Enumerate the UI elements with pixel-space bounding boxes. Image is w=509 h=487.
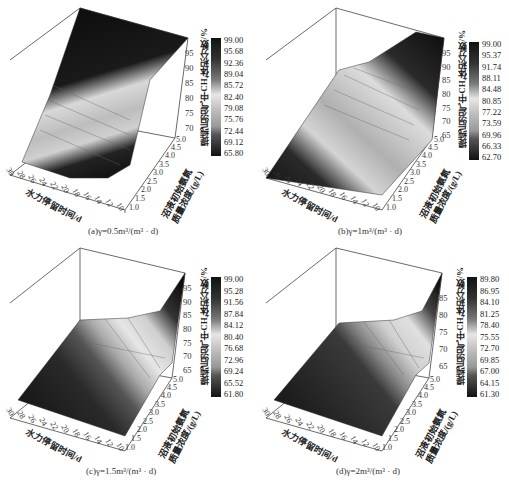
colorbar-tick: 85.72 (224, 81, 243, 90)
y-tick: 1.5 (135, 194, 145, 203)
caption-c: (c)γ=1.5m³/(m³ · d) (86, 466, 156, 476)
colorbar-tick: 61.80 (224, 390, 243, 399)
colorbar-d (467, 277, 477, 397)
y-tick: 1.0 (125, 443, 135, 452)
z-tick: 80 (442, 89, 451, 99)
caption-b: (b)γ=1m³/(m³ · d) (338, 226, 402, 236)
z-tick: 95 (185, 48, 194, 58)
colorbar-ticks-c: 99.00 95.28 91.56 87.84 84.12 80.40 76.6… (224, 275, 243, 399)
colorbar-tick: 62.70 (482, 153, 501, 162)
colorbar-tick: 69.96 (482, 131, 501, 140)
z-tick: 85 (442, 75, 451, 85)
z-ticks-d: 85 80 75 70 65 (439, 293, 448, 371)
colorbar-tick: 69.12 (224, 138, 243, 147)
y-tick: 1.5 (131, 434, 141, 443)
y-tick: 2.0 (394, 425, 404, 434)
colorbar-tick: 79.08 (224, 104, 243, 113)
z-axis-label-b: 提纯后沼气中CH₄体积分数/% (455, 30, 468, 148)
z-tick: 80 (439, 310, 448, 320)
z-tick: 80 (183, 324, 192, 334)
colorbar-ticks-d: 89.80 86.95 84.10 81.25 78.40 75.55 72.7… (480, 275, 499, 399)
y-tick: 1.0 (386, 203, 396, 212)
panel-c: 99.00 95.28 91.56 87.84 84.12 80.40 76.6… (0, 243, 254, 486)
z-tick: 65 (439, 361, 448, 371)
colorbar-tick: 66.33 (482, 142, 501, 151)
y-tick: 2.0 (141, 185, 151, 194)
z-tick: 75 (185, 108, 194, 118)
colorbar-tick: 87.84 (224, 310, 243, 319)
colorbar-ticks-a: 99.00 95.68 92.36 89.04 85.72 82.40 79.0… (224, 36, 243, 158)
colorbar-tick: 84.12 (224, 321, 243, 330)
z-tick: 70 (439, 344, 448, 354)
z-tick: 85 (185, 78, 194, 88)
colorbar-tick: 80.40 (224, 333, 243, 342)
z-tick: 90 (185, 63, 194, 73)
colorbar-tick: 99.00 (224, 36, 243, 45)
z-tick: 70 (185, 123, 194, 133)
colorbar-tick: 91.74 (482, 63, 501, 72)
panel-b: 99.00 95.37 91.74 88.11 84.48 80.85 77.2… (254, 0, 508, 243)
y-tick: 4.0 (422, 151, 432, 160)
z-tick: 90 (183, 297, 192, 307)
colorbar-tick: 95.37 (482, 51, 501, 60)
colorbar-tick: 80.85 (482, 97, 501, 106)
panel-d: 89.80 86.95 84.10 81.25 78.40 75.55 72.7… (254, 243, 508, 486)
y-tick: 4.0 (165, 151, 175, 160)
colorbar-tick: 61.30 (480, 390, 499, 399)
z-ticks-a: 95 90 85 80 75 70 (185, 48, 194, 133)
y-tick: 1.0 (129, 203, 139, 212)
colorbar-tick: 69.24 (224, 367, 243, 376)
y-tick: 3.0 (410, 168, 420, 177)
colorbar-tick: 75.55 (480, 333, 499, 342)
z-tick: 70 (442, 116, 451, 126)
y-tick: 3.0 (149, 408, 159, 417)
z-tick: 85 (439, 293, 448, 303)
y-tick: 1.0 (382, 443, 392, 452)
colorbar-tick: 65.52 (224, 379, 243, 388)
z-tick: 80 (185, 93, 194, 103)
z-tick: 75 (183, 338, 192, 348)
colorbar-tick: 99.00 (224, 275, 243, 284)
colorbar-tick: 81.25 (480, 310, 499, 319)
panel-a: 99.00 95.68 92.36 89.04 85.72 82.40 79.0… (0, 0, 254, 243)
caption-a: (a)γ=0.5m³/(m³ · d) (88, 226, 158, 236)
z-ticks-c: 95 90 85 80 75 70 65 (183, 283, 192, 375)
z-tick: 75 (439, 327, 448, 337)
y-tick: 4.0 (418, 391, 428, 400)
y-tick: 2.0 (398, 185, 408, 194)
z-tick: 70 (183, 351, 192, 361)
colorbar-tick: 72.44 (224, 127, 243, 136)
y-tick: 3.0 (153, 168, 163, 177)
colorbar-tick: 73.59 (482, 119, 501, 128)
z-axis-label-d: 提纯后沼气中CH₄体积分数/% (453, 267, 466, 385)
colorbar-tick: 89.80 (480, 275, 499, 284)
colorbar-tick: 99.00 (482, 40, 501, 49)
z-tick: 95 (183, 283, 192, 293)
colorbar-tick: 92.36 (224, 59, 243, 68)
y-tick: 2.0 (137, 425, 147, 434)
z-tick: 90 (442, 62, 451, 72)
z-ticks-b: 95 90 85 80 75 70 65 (442, 48, 451, 140)
z-axis-label-a: 提纯后沼气中CH₄体积分数/% (197, 28, 210, 146)
y-tick: 4.0 (161, 391, 171, 400)
colorbar-tick: 88.11 (482, 74, 501, 83)
colorbar-tick: 95.68 (224, 47, 243, 56)
colorbar-b (469, 42, 479, 160)
z-tick: 95 (442, 48, 451, 58)
colorbar-tick: 91.56 (224, 298, 243, 307)
colorbar-tick: 95.28 (224, 287, 243, 296)
z-tick: 85 (183, 310, 192, 320)
colorbar-tick: 77.22 (482, 108, 501, 117)
colorbar-tick: 75.76 (224, 115, 243, 124)
colorbar-tick: 72.70 (480, 344, 499, 353)
colorbar-a (211, 38, 221, 156)
y-tick: 1.5 (392, 194, 402, 203)
z-axis-label-c: 提纯后沼气中CH₄体积分数/% (197, 267, 210, 385)
colorbar-tick: 78.40 (480, 321, 499, 330)
colorbar-tick: 84.10 (480, 298, 499, 307)
z-tick: 75 (442, 103, 451, 113)
colorbar-tick: 65.80 (224, 149, 243, 158)
colorbar-tick: 82.40 (224, 93, 243, 102)
colorbar-tick: 64.15 (480, 379, 499, 388)
y-tick: 3.0 (406, 408, 416, 417)
